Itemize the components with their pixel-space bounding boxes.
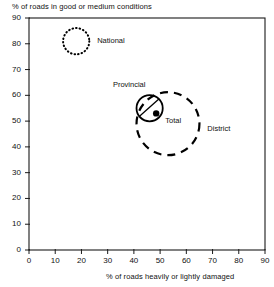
y-tick-label: 60 — [1, 90, 21, 99]
y-tick-label: 40 — [1, 142, 21, 151]
y-tick-label: 80 — [1, 39, 21, 48]
x-tick-label: 10 — [45, 256, 65, 265]
x-tick-label: 40 — [124, 256, 144, 265]
plot-border — [29, 18, 265, 250]
x-tick-label: 20 — [71, 256, 91, 265]
total-dot — [153, 110, 159, 116]
x-tick-label: 0 — [19, 256, 39, 265]
y-tick-label: 0 — [1, 245, 21, 254]
x-tick-label: 60 — [176, 256, 196, 265]
y-tick-label: 70 — [1, 65, 21, 74]
series-label-total: Total — [165, 116, 181, 125]
y-tick-label: 50 — [1, 116, 21, 125]
x-tick-label: 30 — [98, 256, 118, 265]
x-tick-label: 50 — [150, 256, 170, 265]
series-label-national: National — [97, 36, 125, 45]
y-tick-label: 10 — [1, 219, 21, 228]
y-tick-label: 90 — [1, 13, 21, 22]
plot-area — [0, 0, 274, 287]
y-tick-label: 30 — [1, 168, 21, 177]
series-label-provincial: Provincial — [113, 80, 146, 89]
plot-frame — [29, 18, 265, 250]
x-tick-label: 70 — [203, 256, 223, 265]
x-tick-label: 80 — [229, 256, 249, 265]
scatter-chart: % of roads in good or medium conditions … — [0, 0, 274, 287]
x-tick-label: 90 — [255, 256, 274, 265]
y-tick-label: 20 — [1, 193, 21, 202]
series-label-district: District — [207, 124, 230, 133]
